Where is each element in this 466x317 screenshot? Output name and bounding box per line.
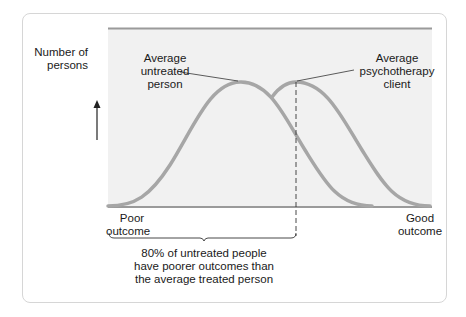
y-axis-label-line2: persons: [28, 59, 88, 72]
good-outcome-line2: outcome: [394, 225, 446, 238]
caption-line2: have poorer outcomes than: [134, 260, 274, 273]
percentile-caption: 80% of untreated people have poorer outc…: [134, 247, 274, 286]
good-outcome-label: Good outcome: [394, 212, 446, 238]
untreated-annotation-line3: person: [135, 78, 195, 91]
up-arrow-icon: [94, 100, 101, 108]
good-outcome-line1: Good: [394, 212, 446, 225]
poor-outcome-line1: Poor: [106, 212, 158, 225]
treated-annotation: Average psychotherapy client: [352, 52, 442, 91]
treated-annotation-line1: Average: [352, 52, 442, 65]
caption-line1: 80% of untreated people: [134, 247, 274, 260]
y-axis-label-line1: Number of: [28, 46, 88, 59]
poor-outcome-line2: outcome: [106, 225, 158, 238]
poor-outcome-label: Poor outcome: [106, 212, 158, 238]
treated-annotation-line2: psychotherapy: [352, 65, 442, 78]
untreated-annotation-line2: untreated: [135, 65, 195, 78]
untreated-annotation: Average untreated person: [135, 52, 195, 91]
y-axis-label: Number of persons: [28, 46, 88, 72]
treated-annotation-line3: client: [352, 78, 442, 91]
caption-line3: the average treated person: [134, 273, 274, 286]
untreated-annotation-line1: Average: [135, 52, 195, 65]
